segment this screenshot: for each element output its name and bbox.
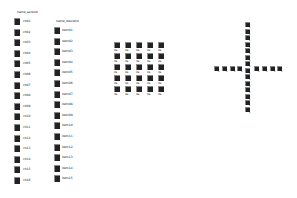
cross-icon[interactable]: x [254, 66, 261, 73]
icon-label: x [218, 70, 219, 73]
cross-icon[interactable]: x [214, 66, 221, 73]
file-icon [14, 60, 20, 67]
desktop-icon[interactable]: item02 [54, 36, 94, 46]
desktop-icon[interactable]: ch02 [14, 27, 54, 37]
grid-icon[interactable]: file [136, 64, 143, 74]
desktop-icon[interactable]: ch01 [14, 16, 54, 26]
desktop-icon[interactable]: ch16 [14, 175, 54, 185]
cross-icon[interactable]: x [245, 107, 252, 114]
grid-icon[interactable]: file [114, 75, 121, 85]
file-icon [147, 53, 153, 59]
icon-label: item15 [62, 177, 73, 180]
icon-label: file [147, 93, 150, 96]
grid-icon[interactable]: file [158, 64, 165, 74]
cross-icon[interactable]: x [222, 66, 229, 73]
cross-icon[interactable]: x [237, 66, 244, 73]
file-icon [125, 86, 131, 92]
icon-label: ch14 [23, 158, 30, 161]
grid-icon[interactable]: file [136, 42, 143, 52]
desktop-icon[interactable]: item12 [54, 142, 94, 152]
grid-icon[interactable]: file [147, 53, 154, 63]
icon-label: file [136, 82, 139, 85]
desktop-icon[interactable]: item05 [54, 67, 94, 77]
desktop-icon[interactable]: item10 [54, 120, 94, 130]
desktop-icon[interactable]: ch14 [14, 154, 54, 164]
grid-icon[interactable]: file [125, 75, 132, 85]
desktop-icon[interactable]: item15 [54, 173, 94, 183]
grid-icon[interactable]: file [125, 42, 132, 52]
icon-label: file [125, 49, 128, 52]
file-icon [14, 39, 20, 46]
icon-label: file [158, 49, 161, 52]
icon-label: item01 [62, 29, 73, 32]
desktop-icon[interactable]: ch04 [14, 48, 54, 58]
icon-label: file [158, 71, 161, 74]
desktop-icon[interactable]: item11 [54, 131, 94, 141]
icon-label: file [147, 49, 150, 52]
file-icon [136, 64, 142, 70]
desktop-icon[interactable]: item07 [54, 89, 94, 99]
file-icon [125, 64, 131, 70]
file-icon [54, 112, 60, 119]
desktop-icon[interactable]: ch03 [14, 37, 54, 47]
desktop-icon[interactable]: item04 [54, 57, 94, 67]
desktop-icon[interactable]: ch13 [14, 143, 54, 153]
grid-icon[interactable]: file [147, 64, 154, 74]
file-icon [158, 42, 164, 48]
grid-icon[interactable]: file [136, 75, 143, 85]
icon-label: file [158, 60, 161, 63]
grid-icon[interactable]: file [147, 75, 154, 85]
grid-icon[interactable]: file [147, 86, 154, 96]
grid-icon[interactable]: file [114, 53, 121, 63]
grid-icon[interactable]: file [125, 53, 132, 63]
icon-label: file [147, 60, 150, 63]
cross-icon[interactable]: x [262, 66, 269, 73]
icon-label: ch01 [23, 20, 30, 23]
desktop-icon[interactable]: ch12 [14, 133, 54, 143]
grid-icon[interactable]: file [136, 53, 143, 63]
icon-label: item10 [62, 124, 73, 127]
cross-icon[interactable]: x [230, 66, 237, 73]
grid-icon[interactable]: file [158, 75, 165, 85]
file-icon [114, 42, 120, 48]
file-icon [136, 75, 142, 81]
icon-label: ch04 [23, 52, 30, 55]
desktop-icon[interactable]: ch05 [14, 58, 54, 68]
file-icon [125, 53, 131, 59]
grid-icon[interactable]: file [125, 64, 132, 74]
file-icon [14, 135, 20, 142]
grid-icon[interactable]: file [114, 64, 121, 74]
grid-icon[interactable]: file [114, 86, 121, 96]
desktop-icon[interactable]: ch11 [14, 122, 54, 132]
grid-icon[interactable]: file [136, 86, 143, 96]
grid-icon[interactable]: file [158, 42, 165, 52]
grid-icon[interactable]: file [125, 86, 132, 96]
desktop-icon[interactable]: ch07 [14, 80, 54, 90]
grid-icon[interactable]: file [114, 42, 121, 52]
desktop-icon[interactable]: ch09 [14, 101, 54, 111]
grid-icon[interactable]: file [158, 53, 165, 63]
desktop-icon[interactable]: item14 [54, 163, 94, 173]
column-header: name_descend [56, 20, 79, 23]
desktop-icon[interactable]: ch06 [14, 69, 54, 79]
desktop-icon[interactable]: item13 [54, 152, 94, 162]
file-icon [158, 64, 164, 70]
icon-label: file [114, 71, 117, 74]
grid-icon[interactable]: file [147, 42, 154, 52]
file-icon [54, 69, 60, 76]
icon-label: item13 [62, 156, 73, 159]
desktop-icon[interactable]: ch08 [14, 90, 54, 100]
grid-icon[interactable]: file [158, 86, 165, 96]
desktop-icon[interactable]: ch15 [14, 164, 54, 174]
desktop-icon[interactable]: item09 [54, 110, 94, 120]
desktop-icon[interactable]: item03 [54, 46, 94, 56]
desktop-icon[interactable]: item06 [54, 78, 94, 88]
cross-icon[interactable]: x [270, 66, 277, 73]
cross-icon[interactable]: x [277, 66, 284, 73]
desktop-icon[interactable]: item08 [54, 99, 94, 109]
file-icon [54, 91, 60, 98]
file-icon [54, 175, 60, 182]
file-icon [54, 122, 60, 129]
desktop-icon[interactable]: ch10 [14, 111, 54, 121]
desktop-icon[interactable]: item01 [54, 25, 94, 35]
